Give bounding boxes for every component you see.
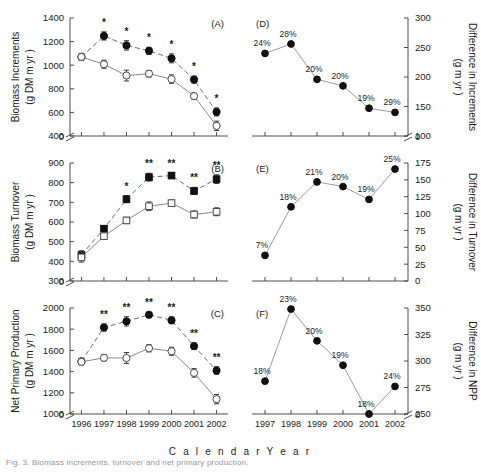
data-point-filled[interactable] — [262, 252, 269, 259]
data-point-filled[interactable] — [366, 196, 373, 203]
y-tick-label: 1200 — [43, 387, 64, 398]
y-tick-label: 25 — [415, 259, 426, 270]
data-point-open[interactable] — [78, 53, 85, 60]
y-tick-label: 1400 — [43, 366, 64, 377]
data-point-filled[interactable] — [314, 337, 321, 344]
data-point-filled[interactable] — [340, 362, 347, 369]
percent-label: 19% — [357, 184, 374, 194]
data-point-filled[interactable] — [392, 383, 399, 390]
data-point-open[interactable] — [101, 233, 108, 240]
percent-label: 21% — [305, 167, 322, 177]
y-axis-title-units: (g DM m yr ) — [24, 333, 35, 389]
data-point-filled[interactable] — [213, 367, 220, 374]
data-point-filled[interactable] — [262, 378, 269, 385]
data-point-open[interactable] — [213, 396, 220, 403]
data-point-filled[interactable] — [366, 105, 373, 112]
data-point-filled[interactable] — [314, 178, 321, 185]
data-point-filled[interactable] — [190, 343, 197, 350]
panel-label: (E) — [256, 163, 269, 174]
percent-label: 24% — [383, 371, 400, 381]
y-tick-label: 300 — [415, 355, 431, 366]
y-tick-label: 325 — [415, 329, 431, 340]
data-point-filled[interactable] — [100, 32, 107, 39]
data-point-filled[interactable] — [168, 317, 175, 324]
data-point-filled[interactable] — [288, 306, 295, 313]
data-point-filled[interactable] — [123, 318, 130, 325]
data-point-open[interactable] — [145, 345, 152, 352]
data-point-open[interactable] — [100, 354, 107, 361]
data-point-filled[interactable] — [262, 50, 269, 57]
data-point-filled[interactable] — [213, 176, 220, 183]
data-point-open[interactable] — [146, 203, 153, 210]
percent-label: 19% — [331, 350, 348, 360]
y-zero-label: 0 — [59, 409, 64, 420]
panel-label: (C) — [211, 308, 224, 319]
data-point-filled[interactable] — [145, 311, 152, 318]
data-point-filled[interactable] — [340, 183, 347, 190]
data-point-filled[interactable] — [168, 55, 175, 62]
data-point-open[interactable] — [168, 200, 175, 207]
x-tick-label: 1997 — [94, 419, 114, 429]
data-point-filled[interactable] — [101, 225, 108, 232]
x-tick-label: 1996 — [71, 419, 91, 429]
x-tick-label: 2000 — [333, 419, 353, 429]
data-point-filled[interactable] — [145, 47, 152, 54]
series-line-difference — [265, 169, 395, 255]
data-point-open[interactable] — [100, 61, 107, 68]
data-point-filled[interactable] — [123, 42, 130, 49]
data-point-open[interactable] — [78, 254, 85, 261]
y-zero-label: 0 — [59, 276, 64, 287]
panel-D: 1001502002503000(D)Difference in Increme… — [252, 12, 478, 142]
data-point-filled[interactable] — [392, 109, 399, 116]
y-tick-label: 150 — [415, 174, 431, 185]
x-tick-label: 2001 — [359, 419, 379, 429]
data-point-open[interactable] — [190, 369, 197, 376]
y-axis-title: Net Primary Production — [10, 309, 21, 412]
x-tick-label: 2002 — [385, 419, 405, 429]
data-point-filled[interactable] — [190, 76, 197, 83]
y-axis-title-units: (g m yr ) — [453, 203, 464, 240]
data-point-open[interactable] — [123, 72, 130, 79]
data-point-open[interactable] — [123, 354, 130, 361]
data-point-open[interactable] — [145, 70, 152, 77]
y-tick-label: 900 — [48, 157, 64, 168]
y-tick-label: 1400 — [43, 12, 64, 23]
data-point-open[interactable] — [168, 348, 175, 355]
y-tick-label: 0 — [415, 275, 420, 286]
significance-marker: ** — [168, 302, 176, 313]
panel-F: 2502753003253500(F)Difference in NPP(g m… — [252, 294, 478, 420]
data-point-filled[interactable] — [366, 411, 373, 418]
percent-label: 18% — [357, 399, 374, 409]
data-point-filled[interactable] — [288, 41, 295, 48]
data-point-open[interactable] — [123, 217, 130, 224]
data-point-filled[interactable] — [123, 196, 130, 203]
data-point-filled[interactable] — [314, 76, 321, 83]
percent-label: 20% — [305, 64, 322, 74]
data-point-open[interactable] — [213, 122, 220, 129]
data-point-open[interactable] — [78, 358, 85, 365]
series-line-difference — [265, 309, 395, 414]
y-axis-title-units: (g m yr ) — [453, 342, 464, 379]
y-axis-title: Biomass Increments — [10, 32, 21, 123]
data-point-open[interactable] — [191, 211, 198, 218]
data-point-filled[interactable] — [146, 174, 153, 181]
data-point-filled[interactable] — [213, 108, 220, 115]
data-point-open[interactable] — [213, 208, 220, 215]
data-point-filled[interactable] — [288, 203, 295, 210]
significance-marker: * — [192, 61, 196, 72]
data-point-filled[interactable] — [168, 172, 175, 179]
y-axis-title: Biomass Turnover — [10, 181, 21, 262]
y-axis-title-units: (g m yr ) — [453, 58, 464, 95]
data-point-open[interactable] — [168, 76, 175, 83]
y-axis-title: Difference in Turnover — [467, 173, 478, 272]
data-point-filled[interactable] — [392, 166, 399, 173]
data-point-filled[interactable] — [100, 324, 107, 331]
panel-C: 1000120014001600180020000(C)Net Primary … — [10, 297, 228, 420]
figure-caption: Fig. 3. Biomass increments, turnover and… — [6, 458, 249, 467]
percent-label: 28% — [279, 29, 296, 39]
panel-A: 4006008001000120014000(A)Biomass Increme… — [10, 12, 228, 142]
data-point-filled[interactable] — [191, 188, 198, 195]
data-point-filled[interactable] — [340, 82, 347, 89]
data-point-open[interactable] — [190, 93, 197, 100]
significance-marker: ** — [168, 158, 176, 169]
